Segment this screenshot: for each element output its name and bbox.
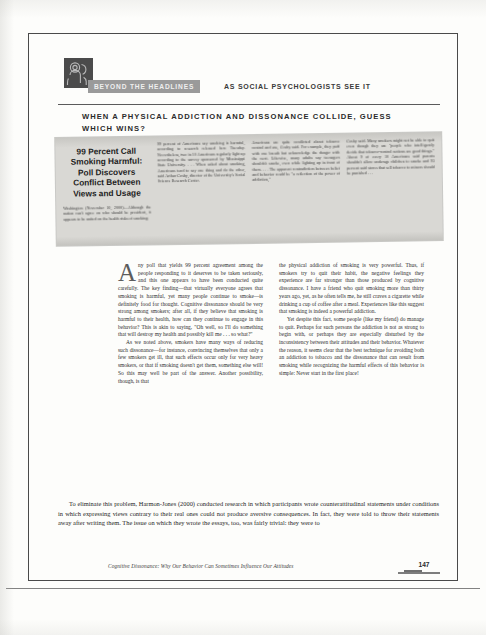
commentary-right-column: the physical addiction of smoking is ver… xyxy=(279,262,424,385)
clipping-column-2: 99 percent of Americans say smoking is h… xyxy=(157,140,246,238)
closing-paragraph: To eliminate this problem, Harmon-Jones … xyxy=(58,499,439,528)
section-title: WHEN A PHYSICAL ADDICTION AND DISSONANCE… xyxy=(82,111,422,134)
clipping-headline: 99 Percent Call Smoking Harmful: Poll Di… xyxy=(62,145,151,198)
clipping-lead-paragraph: Washington (November 10, 2000)—Although … xyxy=(63,204,151,221)
clipping-column-4: Cosby said. Many smokers might not be ab… xyxy=(347,137,436,235)
header-subtitle: AS SOCIAL PSYCHOLOGISTS SEE IT xyxy=(224,80,371,93)
beyond-the-headlines-header: BEYOND THE HEADLINES AS SOCIAL PSYCHOLOG… xyxy=(58,58,446,104)
newspaper-clipping: 99 Percent Call Smoking Harmful: Poll Di… xyxy=(55,132,443,246)
clipping-body-text: 99 percent of Americans say smoking is h… xyxy=(157,140,245,184)
clipping-body-text: Americans are quite conflicted about tob… xyxy=(252,139,340,183)
page-bottom-edge-rule xyxy=(6,588,480,589)
beyond-the-headlines-banner: BEYOND THE HEADLINES xyxy=(88,80,200,93)
footer-divider xyxy=(398,572,440,574)
drop-cap-letter: A xyxy=(118,262,136,282)
clipping-column-3: Americans are quite conflicted about tob… xyxy=(252,139,341,237)
commentary-paragraph: As we noted above, smokers have many way… xyxy=(118,339,263,385)
header-divider xyxy=(58,104,440,105)
commentary-paragraph: Yet despite this fact, some people (like… xyxy=(279,316,424,378)
commentary-body: Any poll that yields 99 percent agreemen… xyxy=(118,262,424,385)
scanned-textbook-page: BEYOND THE HEADLINES AS SOCIAL PSYCHOLOG… xyxy=(0,0,486,635)
clipping-column-1: 99 Percent Call Smoking Harmful: Poll Di… xyxy=(62,141,151,239)
clipping-body-text: Cosby said. Many smokers might not be ab… xyxy=(347,137,435,176)
footer-running-head: Cognitive Dissonance: Why Our Behavior C… xyxy=(108,563,294,569)
commentary-paragraph: the physical addiction of smoking is ver… xyxy=(279,262,424,316)
commentary-paragraph: Any poll that yields 99 percent agreemen… xyxy=(118,262,263,339)
page-number: 147 xyxy=(409,561,439,568)
commentary-paragraph-text: ny poll that yields 99 percent agreement… xyxy=(118,262,263,337)
commentary-left-column: Any poll that yields 99 percent agreemen… xyxy=(118,262,263,385)
